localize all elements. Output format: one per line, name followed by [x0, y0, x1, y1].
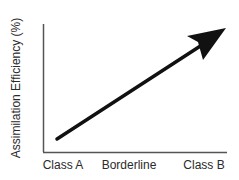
trend-arrowhead-icon: [187, 28, 226, 60]
trend-arrow-shaft: [57, 43, 205, 139]
y-axis-label: Assimilation Efficiency (%): [9, 18, 23, 158]
chart-canvas: [0, 0, 239, 180]
x-tick-borderline: Borderline: [102, 158, 157, 172]
x-tick-class-a: Class A: [43, 158, 84, 172]
x-tick-class-b: Class B: [183, 158, 224, 172]
